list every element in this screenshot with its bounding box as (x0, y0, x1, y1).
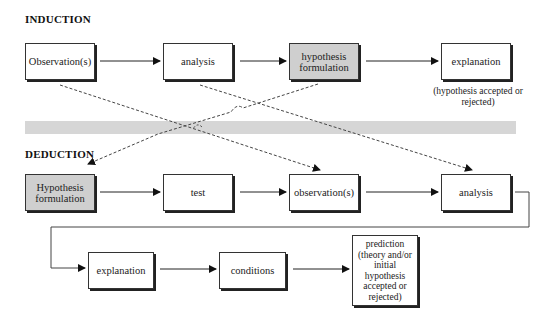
induction-hypothesis-box: hypothesis formulation (289, 43, 359, 80)
induction-hypothesis-label: hypothesis formulation (295, 51, 353, 73)
deduction-analysis-label: analysis (459, 187, 493, 198)
deduction-test-box: test (163, 174, 233, 211)
deduction-observation-box: observation(s) (289, 174, 359, 211)
induction-observation-box: Observation(s) (25, 43, 95, 80)
deduction-conditions-label: conditions (231, 265, 275, 276)
deduction-prediction-box: prediction (theory and/or initial hypoth… (352, 235, 418, 306)
deduction-hypothesis-label: Hypothesis formulation (31, 182, 89, 204)
induction-explanation-note: (hypothesis accepted or rejected) (432, 86, 524, 107)
deduction-observation-label: observation(s) (294, 187, 354, 198)
induction-explanation-label: explanation (452, 56, 501, 67)
induction-analysis-label: analysis (181, 56, 215, 67)
deduction-test-label: test (191, 187, 206, 198)
deduction-explanation-label: explanation (97, 265, 146, 276)
deduction-conditions-box: conditions (219, 252, 286, 289)
induction-analysis-box: analysis (163, 43, 233, 80)
deduction-prediction-label: prediction (theory and/or initial hypoth… (356, 239, 414, 302)
induction-observation-label: Observation(s) (29, 56, 91, 67)
deduction-explanation-box: explanation (88, 252, 154, 289)
induction-explanation-box: explanation (441, 43, 511, 80)
deduction-hypothesis-box: Hypothesis formulation (25, 174, 95, 211)
deduction-analysis-box: analysis (441, 174, 511, 211)
